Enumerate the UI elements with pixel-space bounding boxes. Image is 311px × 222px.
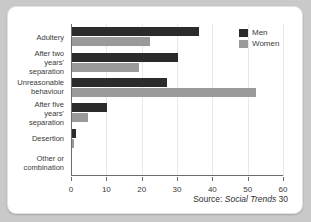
x-axis-tick-label: 40	[208, 185, 217, 194]
x-axis-tick	[212, 177, 213, 181]
bar-men	[72, 103, 107, 112]
bar-women	[72, 37, 150, 46]
y-axis-line	[71, 24, 72, 176]
legend-label-men: Men	[252, 28, 268, 37]
x-axis-tick	[142, 177, 143, 181]
legend-swatch-women	[239, 40, 248, 48]
bar-men	[72, 53, 178, 62]
legend-label-women: Women	[252, 39, 279, 48]
bar-women	[72, 63, 139, 72]
category-label: Other or combination	[24, 154, 64, 172]
chart-legend: Men Women	[239, 28, 279, 50]
category-label: Desertion	[32, 134, 64, 143]
bar-men	[72, 27, 199, 36]
x-axis-tick-label: 10	[102, 185, 111, 194]
legend-item-men: Men	[239, 28, 279, 37]
bar-men	[72, 78, 167, 87]
x-axis-tick	[177, 177, 178, 181]
bar-women	[72, 113, 88, 122]
x-axis-line	[71, 175, 283, 176]
bar-men	[72, 129, 76, 138]
x-axis-tick	[248, 177, 249, 181]
grid-line	[283, 24, 284, 176]
grid-line	[142, 24, 143, 176]
x-axis-tick	[71, 177, 72, 181]
source-issue: 30	[279, 194, 288, 204]
grid-line	[106, 24, 107, 176]
x-axis-tick-label: 30	[173, 185, 182, 194]
category-label: Adultery	[36, 32, 64, 41]
x-axis-tick-label: 20	[137, 185, 146, 194]
category-label: After two years' separation	[29, 49, 64, 76]
chart-card: AdulteryAfter two years' separationUnrea…	[7, 6, 303, 214]
x-axis-tick	[283, 177, 284, 181]
category-label: Unreasonable behaviour	[17, 78, 64, 96]
bar-women	[72, 139, 74, 148]
grid-line	[212, 24, 213, 176]
source-publication: Social Trends	[225, 194, 276, 204]
x-axis-tick-label: 60	[279, 185, 288, 194]
legend-swatch-men	[239, 29, 248, 37]
grid-line	[177, 24, 178, 176]
legend-item-women: Women	[239, 39, 279, 48]
category-label: After five years' separation	[29, 99, 64, 126]
source-prefix: Source:	[193, 194, 222, 204]
x-axis-tick-label: 50	[243, 185, 252, 194]
x-axis-tick	[106, 177, 107, 181]
source-caption: Source: Social Trends 30	[193, 194, 288, 204]
x-axis-tick-label: 0	[69, 185, 73, 194]
bar-women	[72, 88, 256, 97]
